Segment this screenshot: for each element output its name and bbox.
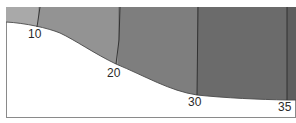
contour-label-30: 30 bbox=[188, 95, 202, 109]
contour-label-20: 20 bbox=[107, 66, 121, 80]
contour-label-10: 10 bbox=[28, 27, 42, 41]
cross-section-diagram: 10 20 30 35 bbox=[0, 0, 296, 123]
contour-label-35: 35 bbox=[278, 100, 292, 114]
zone-over-35 bbox=[287, 7, 296, 107]
zone-30-35 bbox=[197, 7, 287, 107]
